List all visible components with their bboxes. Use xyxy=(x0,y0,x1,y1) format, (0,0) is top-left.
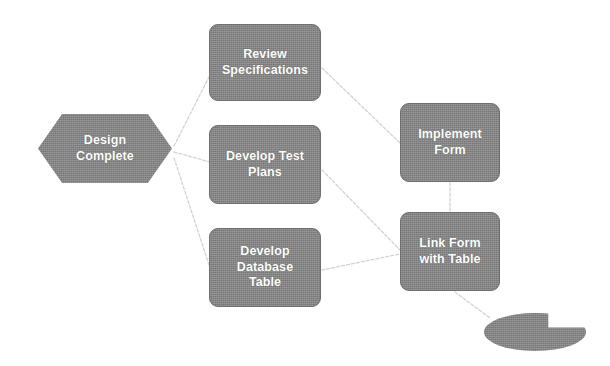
node-label: Develop Database Table xyxy=(237,244,293,291)
edge-design-to-test xyxy=(174,152,210,162)
node-end-terminator[interactable] xyxy=(484,313,586,351)
edge-design-to-database xyxy=(174,158,210,268)
edge-review-to-implement xyxy=(322,68,400,143)
node-design-complete[interactable]: Design Complete xyxy=(38,114,172,183)
edge-database-to-link xyxy=(322,254,400,270)
node-label: Design Complete xyxy=(76,133,134,164)
texture-overlay xyxy=(484,313,586,351)
edge-test-to-link xyxy=(322,170,400,250)
node-label: Review Specifications xyxy=(222,47,308,78)
node-label: Link Form with Table xyxy=(419,236,480,267)
node-label: Implement Form xyxy=(418,127,481,158)
node-develop-database-table[interactable]: Develop Database Table xyxy=(209,228,321,307)
node-develop-test-plans[interactable]: Develop Test Plans xyxy=(209,125,321,204)
edge-design-to-review xyxy=(174,75,210,146)
edge-link-to-end xyxy=(455,292,490,318)
node-label: Develop Test Plans xyxy=(226,149,304,180)
node-review-specifications[interactable]: Review Specifications xyxy=(209,24,321,101)
flowchart-canvas: Design Complete Review Specifications De… xyxy=(0,0,610,366)
node-implement-form[interactable]: Implement Form xyxy=(400,103,500,182)
node-link-form-with-table[interactable]: Link Form with Table xyxy=(400,212,500,291)
